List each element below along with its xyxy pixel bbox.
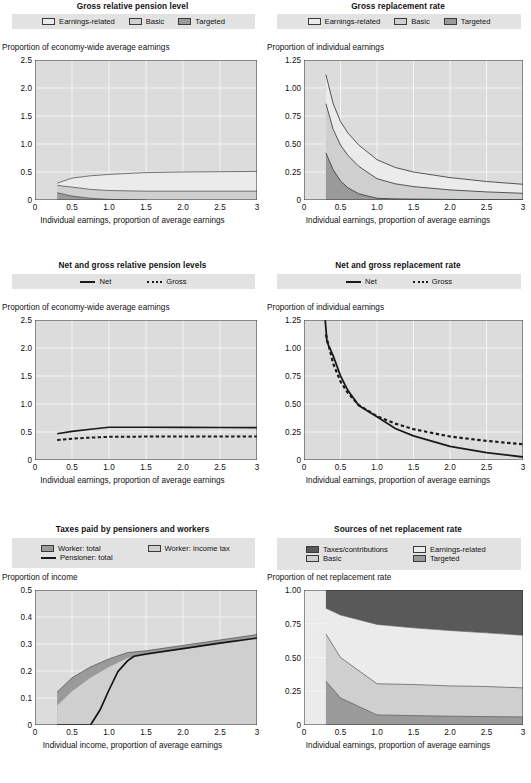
x-tick: 1.5 bbox=[408, 728, 419, 737]
legend-item-targeted[interactable]: Targeted bbox=[399, 554, 516, 563]
x-tick: 1.0 bbox=[103, 203, 114, 212]
y-tick: 0.25 bbox=[285, 687, 301, 696]
panel-net-and-gross-replacement-rate: Net and gross replacement rate Net Gross… bbox=[265, 255, 531, 515]
legend-label: Earnings-related bbox=[325, 17, 381, 26]
legend-item-earnings-related[interactable]: Earnings-related bbox=[42, 17, 115, 26]
x-axis-label: Individual earnings, proportion of avera… bbox=[265, 476, 531, 485]
swatch-worker-total-icon bbox=[41, 545, 54, 552]
y-tick: 0.5 bbox=[21, 168, 32, 177]
legend-item-earnings-related[interactable]: Earnings-related bbox=[399, 545, 516, 554]
legend-item-pensioner-total[interactable]: Pensioner: total bbox=[17, 553, 134, 562]
legend-item-worker-total[interactable]: Worker: total bbox=[17, 544, 134, 553]
x-tick: 2.0 bbox=[177, 203, 188, 212]
legend-label: Pensioner: total bbox=[60, 553, 113, 562]
x-tick: 0 bbox=[33, 463, 38, 472]
legend: Worker: total Worker: income tax Pension… bbox=[12, 538, 255, 568]
legend-item-worker-income-tax[interactable]: Worker: income tax bbox=[134, 544, 251, 553]
y-tick: 0.5 bbox=[21, 428, 32, 437]
legend: Net Gross bbox=[12, 274, 255, 289]
x-tick: 2.0 bbox=[444, 463, 455, 472]
line-solid-icon bbox=[41, 557, 56, 559]
x-tick: 2.5 bbox=[214, 463, 225, 472]
panel-title: Gross relative pension level bbox=[0, 2, 265, 11]
x-tick: 0.5 bbox=[66, 463, 77, 472]
x-tick: 2.5 bbox=[481, 728, 492, 737]
plot-area[interactable] bbox=[304, 60, 523, 200]
panel-title: Taxes paid by pensioners and workers bbox=[0, 525, 265, 534]
legend-label: Net bbox=[365, 277, 377, 286]
x-tick-labels: 0 0.5 1.0 1.5 2.0 2.5 3 bbox=[265, 728, 531, 740]
legend-label: Earnings-related bbox=[430, 545, 486, 554]
swatch-worker-income-tax-icon bbox=[148, 545, 161, 552]
y-tick: 1.5 bbox=[21, 112, 32, 121]
line-solid-icon bbox=[80, 281, 95, 283]
swatch-earnings-related-icon bbox=[308, 18, 321, 25]
legend-item-basic[interactable]: Basic bbox=[394, 17, 430, 26]
x-tick: 2.0 bbox=[177, 728, 188, 737]
y-tick: 1.0 bbox=[21, 140, 32, 149]
x-tick: 0.5 bbox=[335, 463, 346, 472]
legend-item-gross[interactable]: Gross bbox=[147, 277, 186, 286]
legend-label: Worker: income tax bbox=[165, 544, 230, 553]
legend-label: Taxes/contributions bbox=[323, 545, 388, 554]
legend: Net Gross bbox=[277, 274, 521, 289]
y-tick: 2.0 bbox=[21, 84, 32, 93]
y-tick: 0.25 bbox=[285, 428, 301, 437]
y-tick: 0.1 bbox=[21, 694, 32, 703]
plot-area[interactable] bbox=[35, 590, 257, 725]
y-tick: 2.5 bbox=[21, 56, 32, 65]
legend-item-basic[interactable]: Basic bbox=[129, 17, 165, 26]
plot-area[interactable] bbox=[35, 60, 257, 200]
legend-item-targeted[interactable]: Targeted bbox=[444, 17, 491, 26]
legend-label: Basic bbox=[411, 17, 430, 26]
x-tick: 1.5 bbox=[140, 203, 151, 212]
y-tick: 1.5 bbox=[21, 372, 32, 381]
swatch-basic-icon bbox=[394, 18, 407, 25]
x-tick: 2.5 bbox=[481, 203, 492, 212]
x-axis-label: Individual income, proportion of average… bbox=[0, 741, 265, 750]
x-tick: 2.0 bbox=[444, 728, 455, 737]
legend: Earnings-related Basic Targeted bbox=[12, 14, 255, 29]
legend-label: Targeted bbox=[195, 17, 225, 26]
legend-item-gross[interactable]: Gross bbox=[413, 277, 452, 286]
x-tick: 0 bbox=[302, 463, 307, 472]
x-axis-label: Individual earnings, proportion of avera… bbox=[265, 741, 531, 750]
y-tick: 0.75 bbox=[285, 112, 301, 121]
swatch-basic-icon bbox=[306, 555, 319, 562]
x-tick: 3 bbox=[521, 728, 526, 737]
plot-area[interactable] bbox=[35, 320, 257, 460]
plot-area[interactable] bbox=[304, 590, 523, 725]
chart-svg bbox=[35, 60, 257, 200]
y-tick: 0.4 bbox=[21, 613, 32, 622]
y-tick: 0.50 bbox=[285, 653, 301, 662]
y-tick: 1.25 bbox=[285, 56, 301, 65]
legend-item-net[interactable]: Net bbox=[80, 277, 111, 286]
x-axis-label: Individual earnings, proportion of avera… bbox=[0, 476, 265, 485]
line-solid-icon bbox=[346, 281, 361, 283]
x-tick: 3 bbox=[255, 728, 260, 737]
y-tick: 0.75 bbox=[285, 372, 301, 381]
x-tick: 1.0 bbox=[103, 728, 114, 737]
x-tick: 1.5 bbox=[408, 203, 419, 212]
y-tick: 0.75 bbox=[285, 619, 301, 628]
x-tick: 0 bbox=[302, 203, 307, 212]
y-tick: 0.3 bbox=[21, 640, 32, 649]
line-dashed-icon bbox=[147, 281, 162, 283]
x-tick: 1.5 bbox=[140, 728, 151, 737]
legend-item-earnings-related[interactable]: Earnings-related bbox=[308, 17, 381, 26]
y-tick: 0.5 bbox=[21, 586, 32, 595]
legend-label: Targeted bbox=[461, 17, 491, 26]
legend-item-targeted[interactable]: Targeted bbox=[178, 17, 225, 26]
x-tick: 3 bbox=[255, 463, 260, 472]
legend-item-net[interactable]: Net bbox=[346, 277, 377, 286]
chart-svg bbox=[304, 320, 523, 460]
panel-title: Net and gross replacement rate bbox=[265, 261, 531, 270]
x-axis-label: Individual earnings, proportion of avera… bbox=[0, 216, 265, 225]
panel-taxes-paid-by-pensioners-and-workers: Taxes paid by pensioners and workers Wor… bbox=[0, 515, 265, 783]
x-tick: 3 bbox=[521, 463, 526, 472]
legend-label: Net bbox=[99, 277, 111, 286]
legend-label: Basic bbox=[146, 17, 165, 26]
x-tick: 0 bbox=[33, 728, 38, 737]
plot-area[interactable] bbox=[304, 320, 523, 460]
x-tick: 2.0 bbox=[177, 463, 188, 472]
